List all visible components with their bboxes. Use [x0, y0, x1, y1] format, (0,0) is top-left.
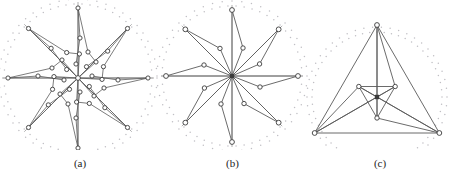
caption-c: (c) [300, 157, 460, 169]
figure-container: (a) (b) (c) [0, 0, 460, 171]
panel-b-drawing [155, 0, 310, 150]
caption-b: (b) [155, 157, 310, 169]
panel-b [155, 0, 310, 150]
panel-a-drawing [0, 0, 160, 150]
panel-c [300, 0, 460, 150]
caption-a: (a) [0, 157, 160, 169]
panel-c-drawing [300, 0, 460, 150]
panel-a [0, 0, 160, 150]
